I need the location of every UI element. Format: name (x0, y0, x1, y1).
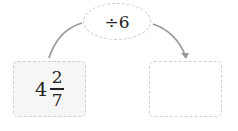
operation-label: ÷6 (104, 12, 129, 32)
numerator: 2 (52, 69, 63, 86)
operation-oval: ÷6 (83, 3, 151, 40)
input-box: 4 2 7 (13, 61, 86, 117)
answer-box[interactable] (149, 61, 222, 117)
fraction: 2 7 (50, 69, 64, 108)
arrowhead-icon (181, 53, 189, 59)
mixed-number: 4 2 7 (35, 69, 64, 108)
whole-part: 4 (35, 78, 47, 100)
denominator: 7 (52, 92, 63, 109)
arc-left (49, 23, 82, 58)
arc-right (153, 24, 185, 55)
